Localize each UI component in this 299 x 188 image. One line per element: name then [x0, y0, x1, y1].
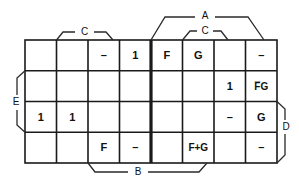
grid-cell-r2c1[interactable]: [25, 71, 57, 102]
grid-cell-r4c4-text: –: [132, 141, 138, 153]
bracket-top-a-left: [151, 17, 195, 40]
grid-cell-r2c2[interactable]: [57, 71, 89, 102]
bracket-label-top-left-c: C: [81, 26, 88, 37]
grid-cell-r2c4[interactable]: [120, 71, 152, 102]
bracket-top-right-c-left: [183, 31, 198, 40]
bracket-label-right-d: D: [282, 121, 289, 132]
grid-cell-r1c4-text: 1: [132, 49, 138, 61]
grid-cell-r1c8-text: –: [258, 49, 264, 61]
grid-cell-r3c4[interactable]: [120, 102, 152, 133]
bracket-left-e-top: [17, 71, 25, 95]
karnaugh-map-diagram: – 1 F G – 1 F̅G 1 1: [0, 0, 299, 188]
grid-cell-r2c7-text: 1: [227, 80, 233, 92]
bracket-label-left-e: E: [13, 96, 20, 107]
grid-cell-r2c5[interactable]: [151, 71, 183, 102]
bracket-right-d-bottom: [277, 134, 285, 163]
grid-cell-r3c1-text: 1: [38, 111, 44, 123]
grid-cell-r3c8-text: G: [257, 111, 266, 123]
grid-cell-r1c2[interactable]: [57, 40, 89, 71]
grid-cell-r4c5[interactable]: [151, 132, 183, 163]
grid-cell-r3c3[interactable]: [88, 102, 120, 133]
bracket-bottom-b-left: [88, 163, 128, 172]
grid-cell-r4c2[interactable]: [57, 132, 89, 163]
bracket-top-a-right: [215, 17, 264, 40]
grid-cell-r3c6[interactable]: [183, 102, 215, 133]
grid-cell-r1c1[interactable]: [25, 40, 57, 71]
grid-cell-r4c6-text: F+G: [188, 142, 208, 153]
grid-cell-r3c2-text: 1: [69, 111, 75, 123]
grid-cell-r3c5[interactable]: [151, 102, 183, 133]
grid-cell-r4c3-text: F: [100, 141, 107, 153]
grid-cell-r2c3[interactable]: [88, 71, 120, 102]
grid-cell-r3c7-text: –: [227, 111, 233, 123]
grid-cell-r2c6[interactable]: [183, 71, 215, 102]
grid-cell-r2c8-text: F̅G: [254, 81, 268, 92]
bracket-bottom-b-right: [148, 163, 207, 172]
bracket-label-top-a: A: [202, 10, 209, 21]
grid-cell-r1c6-text: G: [194, 49, 203, 61]
bracket-label-bottom-b: B: [135, 166, 142, 177]
bracket-label-top-right-c: C: [201, 25, 208, 36]
bracket-right-d-top: [277, 102, 285, 121]
grid-cell-r4c7[interactable]: [214, 132, 246, 163]
bracket-top-left-c-right: [94, 32, 113, 40]
bracket-left-e-bottom: [17, 110, 25, 132]
grid-cell-r1c5-text: F: [163, 49, 170, 61]
grid-cell-r4c8-text: –: [258, 141, 264, 153]
grid-cell-r1c3-text: –: [101, 49, 107, 61]
grid-cell-r4c1[interactable]: [25, 132, 57, 163]
grid-cell-r1c7[interactable]: [214, 40, 246, 71]
bracket-top-left-c: [57, 32, 76, 40]
diagram-canvas: – 1 F G – 1 F̅G 1 1: [0, 0, 299, 188]
bracket-top-right-c-right: [213, 31, 228, 40]
